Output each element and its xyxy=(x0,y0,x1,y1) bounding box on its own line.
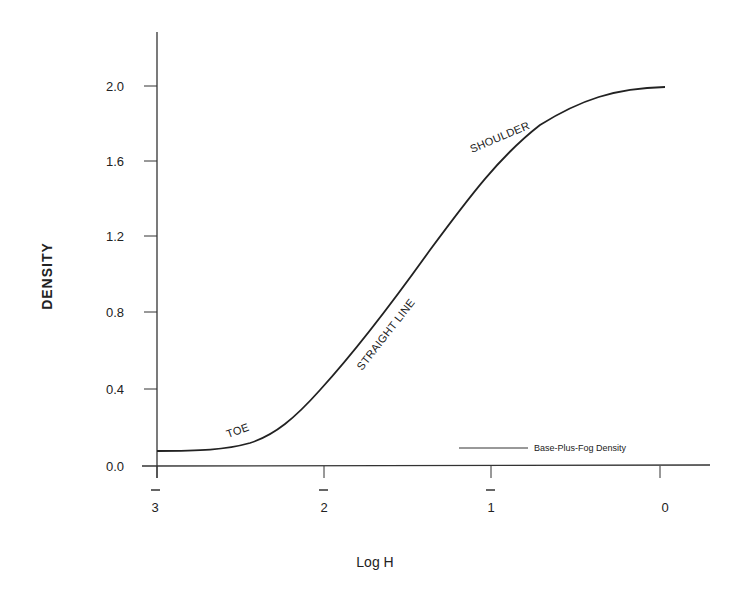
y-tick-label: 2.0 xyxy=(106,79,124,94)
x-tick-label: 1 xyxy=(487,500,494,515)
y-tick-label: 0.0 xyxy=(106,459,124,474)
y-tick-label: 0.4 xyxy=(106,382,124,397)
y-tick-label: 1.6 xyxy=(106,154,124,169)
y-tick-label: 1.2 xyxy=(106,229,124,244)
x-tick-labels: 3 2 1 0 xyxy=(151,500,668,515)
x-tick-label: 2 xyxy=(320,500,327,515)
y-axis-title: DENSITY xyxy=(39,242,55,310)
x-tick-label: 0 xyxy=(661,500,668,515)
legend-label-base-plus-fog: Base-Plus-Fog Density xyxy=(534,443,627,453)
shoulder-label: SHOULDER xyxy=(468,119,531,155)
y-ticks xyxy=(144,86,157,389)
toe-label: TOE xyxy=(225,421,251,440)
straight-line-label: STRAIGHT LINE xyxy=(354,296,417,372)
x-axis-line xyxy=(142,465,710,466)
y-tick-label: 0.8 xyxy=(106,305,124,320)
x-ticks xyxy=(157,466,660,478)
characteristic-curve-chart: 0.0 0.4 0.8 1.2 1.6 2.0 3 2 1 0 Log H DE… xyxy=(0,0,743,592)
y-tick-labels: 0.0 0.4 0.8 1.2 1.6 2.0 xyxy=(106,79,124,474)
characteristic-curve xyxy=(157,87,665,451)
x-axis-title: Log H xyxy=(356,554,393,570)
x-tick-label: 3 xyxy=(151,500,158,515)
